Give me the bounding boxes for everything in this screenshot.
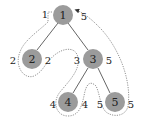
node-4: 4 <box>58 92 78 112</box>
node-2-label: 2 <box>29 53 36 66</box>
annotation-node5-left: 5 <box>97 99 103 110</box>
node-1-label: 1 <box>60 9 67 22</box>
annotation-node2-left: 2 <box>10 55 16 66</box>
annotation-node2-right: 2 <box>45 55 51 66</box>
node-5: 5 <box>105 92 125 112</box>
annotation-node4-left: 4 <box>50 99 56 110</box>
node-1: 1 <box>53 5 73 25</box>
node-3-label: 3 <box>90 53 97 66</box>
annotation-node1-right: 5 <box>81 11 87 22</box>
edge-3-5 <box>98 68 110 93</box>
annotation-node5-right: 5 <box>128 99 134 110</box>
node-4-label: 4 <box>65 96 72 109</box>
node-3: 3 <box>83 49 103 69</box>
annotation-node3-left: 3 <box>74 55 80 66</box>
node-2: 2 <box>22 49 42 69</box>
annotation-node1-left: 1 <box>42 9 48 20</box>
tree-diagram: 1 2 3 4 5 1 5 2 2 3 5 4 4 5 5 <box>0 0 143 131</box>
node-5-label: 5 <box>112 96 119 109</box>
annotation-node4-right: 4 <box>82 99 88 110</box>
edge-1-3 <box>68 23 88 50</box>
annotation-node3-right: 5 <box>106 55 112 66</box>
edge-1-2 <box>37 23 58 50</box>
